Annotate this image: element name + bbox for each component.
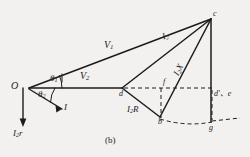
point-label-b: b [158,118,162,126]
phasor-line-i [29,89,62,109]
phasor-line-d-c [122,19,211,88]
point-label-O: O [11,81,18,91]
vector-label-v2: V2 [80,71,90,82]
point-label-c: c [213,10,217,18]
angle-label-theta2: θ2 [38,90,45,99]
vector-label-i-base: I [64,102,67,112]
vector-label-i2r-tail: R [133,104,139,114]
phasor-diagram-figure: O c d b f g d'、e V1 V2 I I2 I2R I2X I2r … [0,0,250,157]
angle-label-theta2-sub: 2 [42,93,45,99]
vector-label-i2r-low: I2r [13,129,23,138]
vector-label-v2-sub: 2 [86,74,89,81]
figure-caption: (b) [105,136,116,145]
vector-label-v1: V1 [104,40,114,51]
vector-label-i2r-cap: I2R [127,105,139,114]
point-label-f: f [163,78,165,86]
angle-label-theta1: θ1 [50,74,57,83]
angle-arc-theta2 [51,88,56,103]
vector-label-i: I [64,103,67,112]
vector-label-v1-sub: 1 [110,43,113,50]
point-label-g: g [209,124,213,132]
point-label-d: d [119,90,123,98]
point-label-dprime-e: d'、e [214,90,231,98]
vector-label-i2r-low-tail: r [19,128,23,138]
dashed-arc-tail-right [212,118,240,121]
arrowhead-i2r-low [20,119,27,128]
dashed-arc-b-g [160,119,212,124]
phasor-diagram-canvas [0,0,250,157]
angle-label-theta1-sub: 1 [54,77,57,83]
